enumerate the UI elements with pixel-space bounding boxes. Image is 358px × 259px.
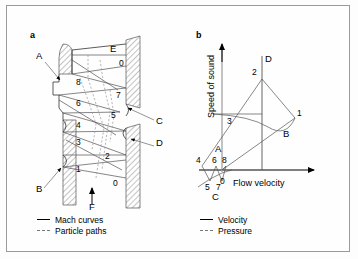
svg-text:B: B	[283, 128, 289, 139]
y-axis-label: Speed of sound	[206, 55, 216, 118]
figure-container: a	[0, 0, 358, 259]
legend-label: Velocity	[218, 215, 247, 225]
panel-b-plot: 0 1 2 3 4 5 6 7 8 A B C D Flow velocity …	[0, 0, 358, 259]
svg-text:1: 1	[297, 108, 302, 118]
svg-text:D: D	[265, 53, 272, 64]
svg-text:5: 5	[205, 182, 210, 192]
svg-text:3: 3	[227, 116, 232, 126]
legend-item-velocity: Velocity	[200, 214, 252, 225]
curve-c	[198, 170, 232, 187]
solid-line-swatch-icon	[200, 219, 213, 220]
svg-text:4: 4	[196, 155, 201, 165]
expansion-line	[222, 118, 295, 170]
svg-text:6: 6	[212, 155, 217, 165]
panel-b-legend: Velocity Pressure	[200, 214, 252, 236]
legend-label: Pressure	[218, 226, 252, 236]
svg-text:A: A	[215, 143, 222, 154]
svg-text:2: 2	[252, 67, 257, 77]
dashed-line-swatch-icon	[200, 230, 213, 231]
x-axis-label: Flow velocity	[233, 178, 285, 188]
svg-text:C: C	[212, 191, 219, 202]
svg-text:0: 0	[220, 176, 225, 186]
svg-text:8: 8	[222, 155, 227, 165]
legend-item-pressure: Pressure	[200, 225, 252, 236]
shock-branch	[262, 79, 295, 118]
